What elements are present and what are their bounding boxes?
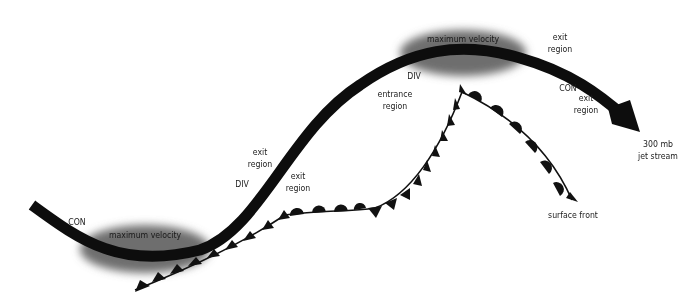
surface-front-label: surface front — [544, 209, 601, 221]
jet-stream-diagram — [0, 0, 700, 302]
max-velocity-label-left: maximum velocity — [108, 229, 182, 240]
con-label-left: CON — [65, 216, 90, 228]
jet-stream-label: 300 mb jet stream — [635, 138, 681, 162]
div-label-left: DIV — [232, 178, 252, 190]
exit-region-upper-left-label: exit region — [244, 146, 277, 170]
front-end-triangle — [566, 192, 578, 202]
max-velocity-label-right: maximum velocity — [426, 33, 500, 44]
exit-region-top-right-label: exit region — [544, 31, 577, 55]
div-label-upper: DIV — [404, 70, 424, 82]
jet-stream-path — [32, 49, 625, 256]
entrance-region-label: entrance region — [375, 88, 416, 112]
exit-region-lower-left-label: exit region — [282, 170, 315, 194]
exit-region-right-label: exit region — [570, 92, 603, 116]
